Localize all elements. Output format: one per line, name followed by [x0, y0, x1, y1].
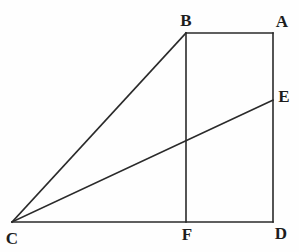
vertex-label-B: B: [180, 12, 191, 29]
segment-group: [12, 33, 273, 222]
geometry-canvas: [0, 0, 299, 252]
segment-CB: [12, 33, 186, 222]
vertex-label-F: F: [182, 226, 192, 243]
segment-CE: [12, 100, 273, 222]
vertex-label-E: E: [278, 88, 289, 105]
vertex-label-A: A: [276, 13, 288, 30]
vertex-label-D: D: [275, 225, 287, 242]
geometry-figure: B A E C F D: [0, 0, 299, 252]
vertex-label-C: C: [6, 230, 18, 247]
